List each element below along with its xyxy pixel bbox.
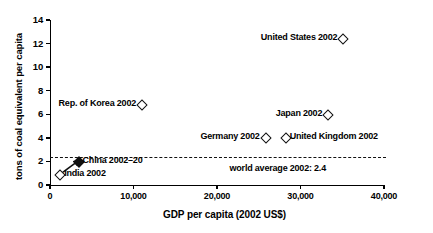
x-tick-mark	[300, 185, 301, 189]
y-tick-label: 2	[17, 155, 43, 166]
y-tick-mark	[46, 114, 50, 115]
world-average-label: world average 2002: 2.4	[230, 163, 326, 173]
data-point-japan	[323, 110, 334, 121]
x-tick-label: 20,000	[187, 191, 247, 201]
scatter-chart: tons of coal equivalent per capita 02468…	[0, 0, 433, 233]
data-label-china: China 2002–20	[83, 155, 143, 165]
y-tick-mark	[46, 161, 50, 162]
x-tick-label: 10,000	[104, 191, 164, 201]
data-label-india: India 2002	[64, 168, 106, 178]
y-tick-label: 12	[17, 38, 43, 49]
y-tick-label: 10	[17, 61, 43, 72]
x-tick-label: 40,000	[354, 191, 414, 201]
y-tick-mark	[46, 137, 50, 138]
y-tick-mark	[46, 66, 50, 67]
data-point-united-states	[338, 33, 349, 44]
data-label-korea: Rep. of Korea 2002	[59, 98, 136, 108]
y-tick-mark	[46, 90, 50, 91]
x-tick-label: 0	[20, 191, 80, 201]
y-tick-mark	[46, 19, 50, 20]
y-tick-mark	[46, 43, 50, 44]
data-label-united-kingdom: United Kingdom 2002	[290, 131, 378, 141]
data-label-united-states: United States 2002	[261, 32, 337, 42]
data-label-germany: Germany 2002	[200, 131, 259, 141]
x-tick-label: 30,000	[271, 191, 331, 201]
y-axis-line	[50, 20, 51, 185]
x-tick-mark	[383, 185, 384, 189]
y-tick-label: 4	[17, 132, 43, 143]
data-label-japan: Japan 2002	[276, 108, 323, 118]
data-point-germany	[260, 132, 271, 143]
x-tick-mark	[49, 185, 50, 189]
y-tick-label: 6	[17, 108, 43, 119]
y-tick-label: 0	[17, 179, 43, 190]
y-tick-label: 8	[17, 85, 43, 96]
x-tick-mark	[216, 185, 217, 189]
x-axis-title: GDP per capita (2002 US$)	[8, 209, 433, 220]
x-tick-mark	[133, 185, 134, 189]
data-point-korea	[136, 99, 147, 110]
y-tick-label: 14	[17, 14, 43, 25]
